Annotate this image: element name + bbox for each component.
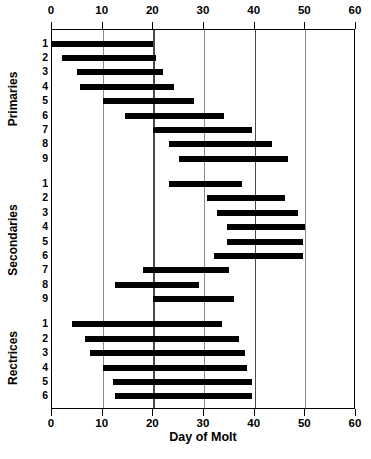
y-category-label: 5	[32, 376, 48, 387]
x-tick-label-top: 50	[298, 5, 311, 17]
x-tick-label-bottom: 0	[48, 418, 54, 430]
y-category-label: 7	[32, 264, 48, 275]
x-tick-top	[51, 22, 52, 29]
y-category-label: 4	[32, 362, 48, 373]
y-category-label: 2	[32, 333, 48, 344]
y-category-label: 9	[32, 293, 48, 304]
y-axis-category-labels: 123456789123456789123456	[26, 29, 48, 409]
range-bar	[90, 350, 245, 356]
range-bar	[125, 113, 224, 119]
x-tick-label-bottom: 20	[146, 418, 159, 430]
y-category-label: 1	[32, 318, 48, 329]
range-bar	[85, 336, 240, 342]
y-category-label: 8	[32, 138, 48, 149]
x-tick-bottom	[152, 409, 153, 416]
range-bar	[153, 296, 234, 302]
range-bar	[103, 98, 194, 104]
y-axis-group-labels: PrimariesSecondariesRectrices	[0, 29, 26, 409]
y-category-label: 2	[32, 192, 48, 203]
range-bar	[214, 253, 303, 259]
y-category-label: 3	[32, 207, 48, 218]
x-tick-bottom	[254, 409, 255, 416]
range-bar	[153, 127, 252, 133]
y-category-label: 4	[32, 221, 48, 232]
x-tick-top	[304, 22, 305, 29]
x-tick-top	[355, 22, 356, 29]
x-tick-label-bottom: 10	[95, 418, 108, 430]
x-axis-title: Day of Molt	[51, 430, 355, 444]
x-tick-top	[152, 22, 153, 29]
x-tick-label-bottom: 30	[197, 418, 210, 430]
x-tick-label-top: 20	[146, 5, 159, 17]
y-category-label: 5	[32, 95, 48, 106]
molt-timing-chart: 0102030405060 0102030405060 123456789123…	[0, 0, 371, 459]
range-bar	[169, 181, 242, 187]
y-category-label: 5	[32, 236, 48, 247]
y-category-label: 1	[32, 38, 48, 49]
group-label-rectrices: Rectrices	[6, 310, 20, 406]
x-tick-top	[102, 22, 103, 29]
range-bar	[207, 195, 286, 201]
plot-area	[51, 29, 355, 409]
range-bar	[179, 156, 288, 162]
y-category-label: 8	[32, 279, 48, 290]
range-bar	[103, 365, 247, 371]
range-bar	[169, 141, 273, 147]
y-category-label: 6	[32, 250, 48, 261]
x-tick-bottom	[203, 409, 204, 416]
range-bar	[217, 210, 298, 216]
y-category-label: 3	[32, 66, 48, 77]
y-category-label: 1	[32, 178, 48, 189]
range-bar	[143, 267, 229, 273]
x-tick-label-top: 40	[247, 5, 260, 17]
y-category-label: 6	[32, 390, 48, 401]
x-tick-bottom	[102, 409, 103, 416]
x-tick-label-bottom: 40	[247, 418, 260, 430]
x-tick-label-top: 0	[48, 5, 54, 17]
x-tick-top	[254, 22, 255, 29]
y-category-label: 9	[32, 153, 48, 164]
range-bar	[62, 55, 156, 61]
x-tick-label-top: 60	[349, 5, 362, 17]
y-category-label: 6	[32, 110, 48, 121]
x-tick-bottom	[51, 409, 52, 416]
range-bar	[115, 282, 199, 288]
gridline	[305, 30, 306, 408]
range-bar	[113, 379, 252, 385]
x-tick-label-bottom: 60	[349, 418, 362, 430]
range-bar	[77, 69, 163, 75]
y-category-label: 7	[32, 124, 48, 135]
y-category-label: 4	[32, 81, 48, 92]
y-category-label: 2	[32, 52, 48, 63]
range-bar	[227, 239, 303, 245]
x-tick-top	[203, 22, 204, 29]
gridline	[255, 30, 256, 408]
group-label-secondaries: Secondaries	[6, 192, 20, 288]
x-tick-label-bottom: 50	[298, 418, 311, 430]
x-tick-bottom	[304, 409, 305, 416]
range-bar	[227, 224, 306, 230]
range-bar	[72, 321, 221, 327]
y-category-label: 3	[32, 347, 48, 358]
x-tick-label-top: 30	[197, 5, 210, 17]
range-bar	[80, 84, 174, 90]
x-tick-bottom	[355, 409, 356, 416]
range-bar	[52, 41, 153, 47]
x-tick-label-top: 10	[95, 5, 108, 17]
group-label-primaries: Primaries	[6, 51, 20, 147]
range-bar	[115, 393, 252, 399]
